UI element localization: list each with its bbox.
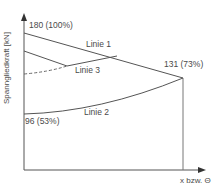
linie-3 <box>24 51 117 66</box>
end-value-label: 131 (73%) <box>164 60 203 69</box>
linie-3-label: Linie 3 <box>75 66 100 75</box>
y-axis-label: Spanngliedkraft [kN] <box>3 32 11 104</box>
x-axis-arrow-icon <box>198 167 206 173</box>
linie-2-label: Linie 2 <box>84 108 109 117</box>
y-axis-arrow-icon <box>21 13 27 21</box>
min-value-label: 96 (53%) <box>25 117 60 126</box>
x-axis-label: x bzw. Θ <box>180 177 211 185</box>
linie-1-label: Linie 1 <box>86 40 111 49</box>
start-value-label: 180 (100%) <box>29 21 73 30</box>
linie-3-dashed <box>24 66 67 74</box>
